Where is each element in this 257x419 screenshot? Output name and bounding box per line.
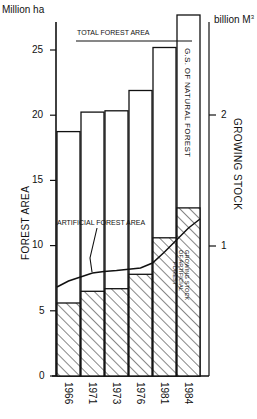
- chart-canvas: [0, 0, 257, 419]
- artificial-forest-area-leader: [90, 228, 97, 272]
- annotation-total-forest-area: TOTAL FOREST AREA: [77, 29, 149, 36]
- annotation-gs-artificial-forest-line3: FOREST: [172, 262, 178, 286]
- right-axis-unit: billion M3: [214, 14, 254, 25]
- xtick-1973: 1973: [111, 382, 121, 404]
- ytick-5: 5: [39, 306, 45, 316]
- xtick-1971: 1971: [87, 382, 97, 404]
- right-axis-title: GROWING STOCK: [232, 118, 243, 210]
- xtick-1981: 1981: [159, 382, 169, 404]
- xtick-1966: 1966: [63, 382, 73, 404]
- left-axis-ticks: [50, 50, 56, 376]
- xtick-1976: 1976: [135, 382, 145, 404]
- forest-area-growing-stock-chart: Million ha billion M3 25 20 15 10 5 0 2 …: [0, 0, 257, 419]
- ytick-0: 0: [39, 371, 45, 381]
- ytick-20: 20: [32, 110, 43, 120]
- annotation-gs-artificial-forest-line2: OF ARTIFICIAL: [178, 250, 184, 291]
- annotation-artificial-forest-area: ARTIFICIAL FOREST AREA: [57, 219, 145, 226]
- ytick-15: 15: [32, 175, 43, 185]
- ytick-25: 25: [32, 45, 43, 55]
- xtick-1984: 1984: [183, 382, 193, 404]
- ytick-10: 10: [32, 240, 43, 250]
- right-axis-unit-superscript: 3: [251, 14, 254, 20]
- left-axis-unit: Million ha: [2, 4, 44, 15]
- right-axis-ticks: [209, 115, 216, 246]
- right-axis-unit-text: billion M: [214, 14, 251, 25]
- annotation-gs-artificial-forest-line1: GROWING STOCK: [184, 250, 190, 300]
- y2tick-1: 1: [221, 241, 227, 251]
- y2tick-2: 2: [221, 110, 227, 120]
- left-axis-title: FOREST AREA: [20, 186, 31, 260]
- annotation-gs-natural-forest: G.S. OF NATURAL FOREST: [183, 48, 192, 157]
